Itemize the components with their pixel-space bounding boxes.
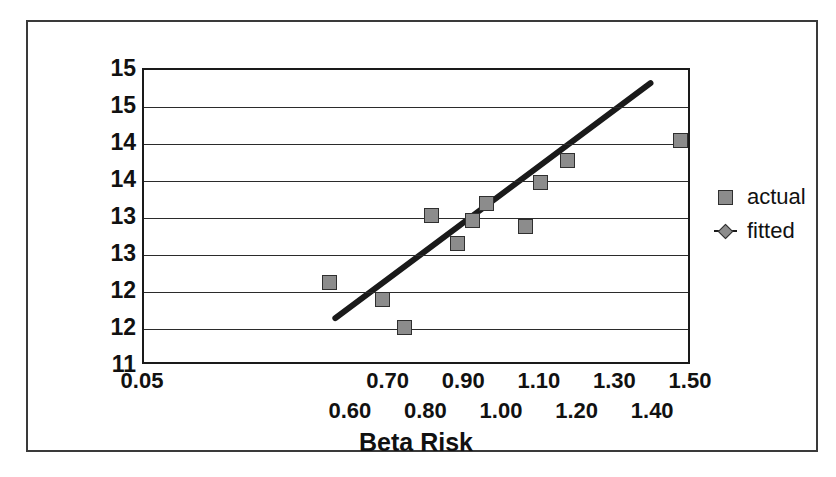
y-axis-tick-label: 13 [80, 242, 136, 265]
y-axis-tick-label: 15 [80, 57, 136, 80]
x-axis-tick-label: 1.50 [645, 370, 735, 392]
x-axis-tick-label: 1.40 [607, 400, 697, 422]
fitted-line [144, 70, 688, 362]
legend-item-fitted[interactable]: fitted [718, 214, 836, 248]
chart-legend: actualfitted [718, 180, 836, 248]
gridline [144, 255, 688, 256]
data-point-marker [322, 275, 337, 290]
legend-diamond-shape [718, 223, 734, 239]
legend-item-actual[interactable]: actual [718, 180, 836, 214]
data-point-marker [673, 133, 688, 148]
data-point-marker [424, 208, 439, 223]
data-point-marker [533, 175, 548, 190]
data-point-marker [479, 196, 494, 211]
data-point-marker [560, 153, 575, 168]
legend-item-label: fitted [747, 220, 795, 242]
y-axis-tick-label: 14 [80, 131, 136, 154]
data-point-marker [465, 213, 480, 228]
gridline [144, 144, 688, 145]
y-axis-tick-label: 14 [80, 168, 136, 191]
y-axis-tick-label: 15 [80, 94, 136, 117]
legend-square-marker-icon [718, 190, 733, 205]
gridline [144, 292, 688, 293]
data-point-marker [450, 236, 465, 251]
plot-area [142, 68, 690, 364]
gridline [144, 329, 688, 330]
x-axis-tick-labels: 0.050.600.700.800.901.001.101.201.301.40… [142, 370, 690, 428]
y-axis-tick-label: 13 [80, 205, 136, 228]
figure-frame: % Expected Return 151514141313121211 0.0… [26, 20, 818, 452]
legend-diamond-marker-icon [718, 224, 733, 239]
gridline [144, 181, 688, 182]
y-axis-tick-label: 12 [80, 316, 136, 339]
data-point-marker [375, 292, 390, 307]
chart-screenshot: % Expected Return 151514141313121211 0.0… [0, 0, 836, 477]
y-axis-tick-labels: 151514141313121211 [80, 58, 136, 374]
x-axis-tick-label: 0.05 [97, 370, 187, 392]
gridline [144, 218, 688, 219]
gridline [144, 107, 688, 108]
x-axis-title: Beta Risk [142, 428, 690, 457]
y-axis-tick-label: 12 [80, 279, 136, 302]
data-point-marker [518, 219, 533, 234]
legend-item-label: actual [747, 186, 806, 208]
data-point-marker [397, 320, 412, 335]
